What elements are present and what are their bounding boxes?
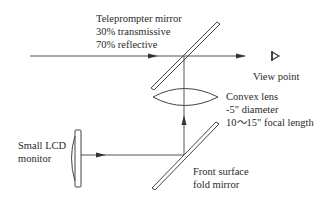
lcd-monitor bbox=[72, 130, 82, 187]
arrowhead-icon bbox=[182, 115, 187, 125]
teleprompter-mirror-label: Teleprompter mirror 30% transmissive 70%… bbox=[96, 12, 182, 51]
lcd-monitor-title: Small LCD bbox=[18, 139, 66, 152]
convex-lens-focal-length: 10～15" focal length bbox=[226, 116, 314, 129]
teleprompter-mirror-title: Teleprompter mirror bbox=[96, 12, 182, 25]
fold-mirror-subtitle: fold mirror bbox=[193, 178, 249, 191]
teleprompter-transmissive: 30% transmissive bbox=[96, 25, 182, 38]
convex-lens-title: Convex lens bbox=[226, 90, 314, 103]
lcd-monitor-label: Small LCD monitor bbox=[18, 139, 66, 165]
convex-lens-label: Convex lens -5" diameter 10～15" focal le… bbox=[226, 90, 314, 129]
convex-lens-diameter: -5" diameter bbox=[226, 103, 314, 116]
fold-mirror-title: Front surface bbox=[193, 165, 249, 178]
arrowhead-icon bbox=[148, 54, 158, 59]
fold-mirror-label: Front surface fold mirror bbox=[193, 165, 249, 191]
teleprompter-reflective: 70% reflective bbox=[96, 38, 182, 51]
view-point-label: View point bbox=[253, 70, 299, 83]
eye-icon bbox=[272, 51, 279, 61]
convex-lens bbox=[153, 89, 218, 106]
arrowhead-icon bbox=[236, 54, 246, 59]
lcd-monitor-subtitle: monitor bbox=[18, 152, 66, 165]
arrowhead-icon bbox=[96, 153, 106, 158]
